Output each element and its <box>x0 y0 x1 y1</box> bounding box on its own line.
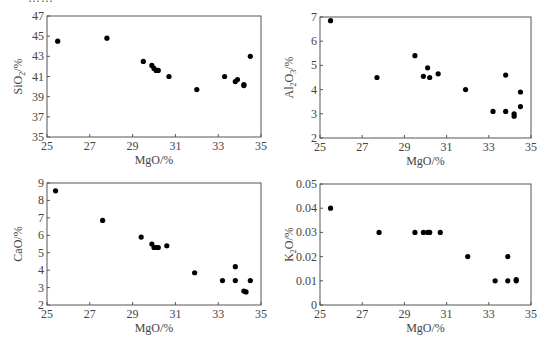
data-point <box>421 74 426 79</box>
x-tick-label: 29 <box>127 307 139 321</box>
x-tick-label: 35 <box>525 140 537 154</box>
data-point <box>328 18 333 23</box>
data-point <box>518 104 523 109</box>
x-tick-label: 27 <box>84 139 96 153</box>
x-tick-label: 33 <box>212 139 224 153</box>
data-point <box>436 71 441 76</box>
y-tick-label: 6 <box>38 228 44 242</box>
data-point <box>53 188 58 193</box>
y-tick-label: 45 <box>32 29 44 43</box>
plot-frame <box>320 184 531 305</box>
data-point <box>503 72 508 77</box>
chart-panel-cao: 25272931333523456789MgO/%CaO/% <box>11 176 267 335</box>
chart-panel-k2o: 25272931333500.010.020.030.040.05MgO/%K2… <box>282 177 537 335</box>
data-point <box>412 53 417 58</box>
data-point <box>490 109 495 114</box>
data-point <box>233 278 238 283</box>
y-tick-label: 41 <box>32 70 44 84</box>
x-tick-label: 27 <box>84 307 96 321</box>
y-tick-label: 39 <box>32 90 44 104</box>
data-point <box>194 87 199 92</box>
data-point <box>518 89 523 94</box>
data-point <box>220 278 225 283</box>
data-point <box>376 230 381 235</box>
x-tick-label: 31 <box>169 139 181 153</box>
data-point <box>438 230 443 235</box>
x-tick-label: 31 <box>441 307 453 321</box>
data-point <box>192 270 197 275</box>
x-tick-label: 27 <box>356 140 368 154</box>
data-point <box>100 218 105 223</box>
data-point <box>55 39 60 44</box>
data-point <box>427 230 432 235</box>
y-tick-label: 0.04 <box>296 201 317 215</box>
y-tick-label: 7 <box>311 10 317 24</box>
data-point <box>166 74 171 79</box>
x-tick-label: 29 <box>398 140 410 154</box>
data-point <box>412 230 417 235</box>
data-point <box>328 206 333 211</box>
y-tick-label: 6 <box>311 34 317 48</box>
y-tick-label: 2 <box>38 298 44 312</box>
data-point <box>156 245 161 250</box>
x-axis-label: MgO/% <box>135 153 174 167</box>
y-tick-label: 0.01 <box>296 274 317 288</box>
x-tick-label: 33 <box>483 140 495 154</box>
scatter-chart-grid: 25272931333535373941434547MgO/%SiO2/%252… <box>0 0 549 350</box>
y-tick-label: 4 <box>38 263 44 277</box>
data-point <box>243 289 248 294</box>
y-tick-label: 0.03 <box>296 225 317 239</box>
data-point <box>235 77 240 82</box>
data-point <box>425 65 430 70</box>
data-point <box>512 114 517 119</box>
y-axis-label: CaO/% <box>11 226 25 261</box>
y-tick-label: 0.02 <box>296 250 317 264</box>
y-tick-label: 8 <box>38 193 44 207</box>
y-tick-label: 7 <box>38 211 44 225</box>
x-tick-label: 35 <box>525 307 537 321</box>
x-tick-label: 33 <box>212 307 224 321</box>
plot-frame <box>47 16 261 137</box>
x-tick-label: 29 <box>398 307 410 321</box>
y-tick-label: 5 <box>38 246 44 260</box>
x-tick-label: 29 <box>127 139 139 153</box>
data-point <box>374 75 379 80</box>
data-point <box>241 82 246 87</box>
data-point <box>493 278 498 283</box>
x-tick-label: 27 <box>356 307 368 321</box>
y-axis-label: Al2O3/% <box>282 56 298 98</box>
data-point <box>139 234 144 239</box>
y-tick-label: 0.05 <box>296 177 317 191</box>
data-point <box>427 75 432 80</box>
x-tick-label: 35 <box>255 307 267 321</box>
x-tick-label: 35 <box>255 139 267 153</box>
y-axis-label: K2O/% <box>282 227 298 262</box>
data-point <box>141 59 146 64</box>
x-axis-label: MgO/% <box>406 154 445 168</box>
y-tick-label: 43 <box>32 49 44 63</box>
data-point <box>505 278 510 283</box>
y-tick-label: 47 <box>32 9 44 23</box>
y-tick-label: 5 <box>311 58 317 72</box>
x-axis-label: MgO/% <box>135 321 174 335</box>
y-tick-label: 9 <box>38 176 44 190</box>
x-tick-label: 31 <box>169 307 181 321</box>
data-point <box>222 74 227 79</box>
data-point <box>248 278 253 283</box>
y-tick-label: 3 <box>311 107 317 121</box>
x-axis-label: MgO/% <box>406 321 445 335</box>
data-point <box>164 243 169 248</box>
y-tick-label: 0 <box>311 298 317 312</box>
data-point <box>465 254 470 259</box>
data-point <box>463 87 468 92</box>
data-point <box>248 54 253 59</box>
data-point <box>514 277 519 282</box>
y-tick-label: 35 <box>32 130 44 144</box>
chart-panel-al2o3: 252729313335234567MgO/%Al2O3/% <box>282 10 537 168</box>
y-tick-label: 3 <box>38 281 44 295</box>
data-point <box>156 68 161 73</box>
x-tick-label: 33 <box>483 307 495 321</box>
y-tick-label: 2 <box>311 131 317 145</box>
data-point <box>233 264 238 269</box>
x-tick-label: 31 <box>441 140 453 154</box>
